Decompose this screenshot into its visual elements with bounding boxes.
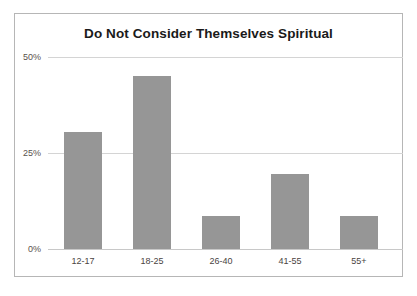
bar-41-55[interactable]: [271, 174, 309, 249]
xtick-label-12-17: 12-17: [71, 256, 94, 266]
ytick-label-25: 25%: [23, 148, 41, 158]
xtick-label-18-25: 18-25: [140, 256, 163, 266]
axis-baseline: [48, 249, 403, 250]
chart-title: Do Not Consider Themselves Spiritual: [15, 26, 402, 41]
bar-26-40[interactable]: [202, 216, 240, 249]
bar-group-26-40: 26-40: [202, 57, 240, 249]
bar-group-41-55: 41-55: [271, 57, 309, 249]
bar-12-17[interactable]: [64, 132, 102, 249]
chart-figure: Do Not Consider Themselves Spiritual 50%…: [14, 13, 403, 277]
bars-layer: 12-17 18-25 26-40 41-55 55+: [48, 57, 403, 249]
bar-55plus[interactable]: [340, 216, 378, 249]
bar-group-12-17: 12-17: [64, 57, 102, 249]
xtick-label-26-40: 26-40: [209, 256, 232, 266]
xtick-label-55plus: 55+: [351, 256, 366, 266]
bar-18-25[interactable]: [133, 76, 171, 249]
bar-group-55plus: 55+: [340, 57, 378, 249]
xtick-label-41-55: 41-55: [278, 256, 301, 266]
bar-group-18-25: 18-25: [133, 57, 171, 249]
ytick-label-0: 0%: [28, 244, 41, 254]
ytick-label-50: 50%: [23, 52, 41, 62]
plot-area: 50% 25% 0% 12-17 18-25 26-40 41-55: [48, 57, 403, 249]
